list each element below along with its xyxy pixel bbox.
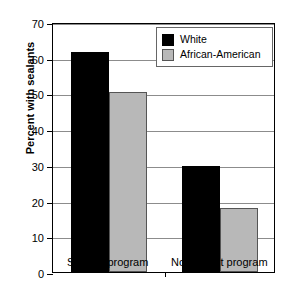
y-tick-mark [47,238,53,239]
y-tick-mark [47,131,53,132]
y-tick-mark [47,95,53,96]
y-tick-label: 60 [32,54,44,66]
legend-label: White [180,34,207,45]
bar-white-sealant-program [71,52,109,272]
y-tick-label: 70 [32,18,44,30]
legend-item: African-American [162,47,267,62]
y-tick-label: 0 [38,268,44,280]
y-tick-mark [47,24,53,25]
gridline [53,24,274,25]
legend-item: White [162,32,267,47]
y-tick-label: 10 [32,232,44,244]
y-tick-label: 30 [32,161,44,173]
plot-area: 010203040506070WhiteAfrican-American [52,23,275,273]
y-tick-label: 20 [32,197,44,209]
x-tick-mark [165,272,166,277]
y-tick-mark [47,274,53,275]
gray-swatch [162,49,174,61]
y-tick-mark [47,203,53,204]
chart-legend: WhiteAfrican-American [156,27,273,67]
black-swatch [162,34,174,46]
y-tick-label: 50 [32,89,44,101]
y-tick-label: 40 [32,125,44,137]
y-tick-mark [47,60,53,61]
bar-chart-figure: Percent with sealants 010203040506070Whi… [0,0,290,303]
y-tick-mark [47,167,53,168]
x-tick-label: Sealant program [52,256,164,268]
bar-african-american-sealant-program [109,92,147,272]
x-tick-label: No sealant program [164,256,276,268]
legend-label: African-American [180,49,261,60]
